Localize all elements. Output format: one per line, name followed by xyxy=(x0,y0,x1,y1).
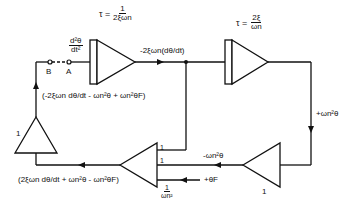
feedback-amplifier-block xyxy=(15,117,57,153)
integrator-1-tau-fraction: 1 2ξωn xyxy=(112,5,133,22)
feedback-signal-label: (-2ξωn dθ/dt - ωn²θ + ωn²θF) xyxy=(42,92,145,100)
summer-output-label: (2ξωn dθ/dt + ωn²θ - ωn²θF) xyxy=(18,176,119,184)
d2theta-den: dt² xyxy=(70,46,81,54)
inverter-output-label: -ωn²θ xyxy=(203,152,223,160)
integrator-1-input-label: d²θ dt² xyxy=(69,37,83,54)
integrator-1-output-label: -2ξωn(dθ/dt) xyxy=(140,47,185,55)
summer-gain-3: 1 ωn² xyxy=(160,184,174,199)
integrator-1-block xyxy=(90,40,135,84)
integrator-2-output-label: +ωn²θ xyxy=(316,110,338,118)
summer-gain-1: 1 xyxy=(160,144,164,151)
integrator-2-block xyxy=(225,40,268,84)
summer-gain-3-num: 1 xyxy=(164,184,170,192)
external-input-label: +θF xyxy=(204,176,218,184)
switch-label-b: B xyxy=(46,68,51,76)
summer-block xyxy=(120,143,157,187)
switch-contact-b[interactable] xyxy=(48,60,52,64)
integrator-1-tau-den: 2ξωn xyxy=(112,14,133,22)
feedback-amplifier-gain: 1 xyxy=(16,130,20,138)
block-diagram: τ = 1 2ξωn d²θ dt² B A -2ξωn(dθ/dt) τ = … xyxy=(0,0,355,214)
integrator-1-tau-label: τ = xyxy=(99,10,110,19)
junction-dot xyxy=(184,60,188,64)
summer-gain-2: 1 xyxy=(160,157,164,164)
switch-contact-a[interactable] xyxy=(67,60,71,64)
integrator-2-tau-fraction: 2ξ ωn xyxy=(250,14,263,31)
integrator-2-tau-label: τ = xyxy=(236,19,247,28)
inverter-gain-label: 1 xyxy=(262,188,266,196)
inverter-block xyxy=(243,143,280,187)
summer-gain-3-den: ωn² xyxy=(160,192,174,199)
switch-label-a: A xyxy=(66,68,71,76)
integrator-2-tau-den: ωn xyxy=(250,23,263,31)
